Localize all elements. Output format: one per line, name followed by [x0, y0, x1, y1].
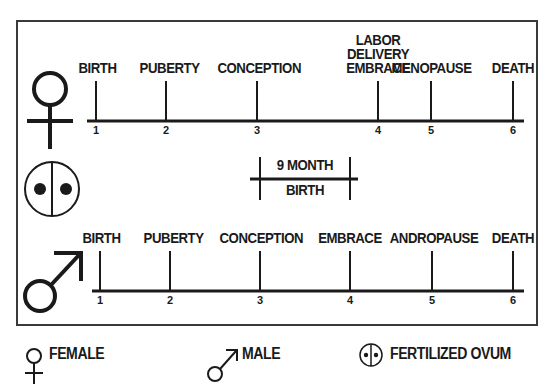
gestation-label-top: 9 MONTH: [270, 158, 340, 172]
male-tick-3: 3: [257, 294, 263, 306]
legend-ovum-icon: [360, 344, 382, 366]
female-tick-1: 1: [93, 124, 99, 136]
male-tick-6: 6: [510, 294, 516, 306]
female-tick-6: 6: [510, 124, 516, 136]
female-tick-2: 2: [163, 124, 169, 136]
male-tick-5: 5: [429, 294, 435, 306]
female-tick-5: 5: [428, 124, 434, 136]
male-event-puberty: PUBERTY: [144, 231, 197, 245]
female-timeline-axis: [87, 81, 524, 122]
female-symbol-icon: [27, 73, 73, 149]
legend-female-label: FEMALE: [49, 345, 104, 363]
female-event-birth: BIRTH: [78, 61, 113, 75]
legend-female-icon: [25, 349, 43, 384]
male-event-birth: BIRTH: [82, 231, 117, 245]
male-tick-4: 4: [347, 294, 353, 306]
male-event-conception: CONCEPTION: [220, 231, 301, 245]
male-timeline-axis: [92, 251, 524, 292]
female-tick-4: 4: [375, 124, 381, 136]
fertilized-ovum-icon: [25, 162, 79, 216]
legend-male-icon: [208, 350, 237, 381]
male-tick-1: 1: [97, 294, 103, 306]
male-event-death: DEATH: [491, 231, 535, 245]
female-tick-3: 3: [254, 124, 260, 136]
female-event-conception: CONCEPTION: [217, 61, 296, 75]
female-event-death: DEATH: [491, 61, 535, 75]
male-symbol-icon: [25, 253, 81, 311]
female-event-puberty: PUBERTY: [140, 61, 193, 75]
female-event-menopause: MENOPAUSE: [391, 61, 470, 75]
male-event-andropause: ANDROPAUSE: [390, 231, 474, 245]
legend-male-label: MALE: [242, 345, 280, 363]
male-event-embrace: EMBRACE: [315, 231, 385, 245]
male-tick-2: 2: [167, 294, 173, 306]
gestation-label-bottom: BIRTH: [270, 183, 340, 197]
legend-ovum-label: FERTILIZED OVUM: [390, 345, 511, 363]
